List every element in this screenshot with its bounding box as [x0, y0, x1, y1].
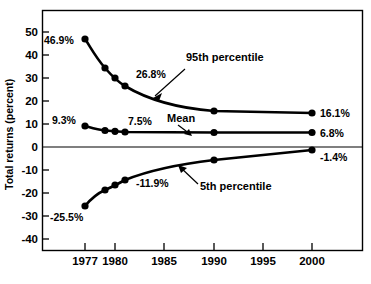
chart-container: 50 40 30 20 10 0 -10 -20 -30 -40 Total r…	[0, 0, 371, 284]
y-tick-label-m40: -40	[21, 233, 38, 245]
y-tick-label-m30: -30	[21, 210, 38, 222]
data-point	[101, 186, 108, 193]
data-point	[210, 129, 217, 136]
y-tick-label-m10: -10	[21, 164, 38, 176]
y-tick-label-40: 40	[25, 49, 38, 61]
y-tick-label-50: 50	[25, 26, 38, 38]
point-label-mean-mid: 7.5%	[128, 115, 153, 127]
data-point	[101, 127, 108, 134]
y-tick-label-10: 10	[25, 118, 38, 130]
y-axis-ticks	[43, 32, 50, 239]
x-tick-label-1980: 1980	[102, 255, 128, 267]
point-label-p95-end: 16.1%	[320, 107, 350, 119]
y-tick-label-m20: -20	[21, 187, 38, 199]
point-label-mean-end: 6.8%	[320, 127, 345, 139]
data-point	[81, 35, 88, 42]
data-point	[308, 109, 315, 116]
data-point	[111, 181, 118, 188]
x-tick-label-1985: 1985	[151, 255, 177, 267]
x-axis-ticks	[85, 243, 312, 251]
data-point	[308, 129, 315, 136]
data-point	[210, 107, 217, 114]
data-point	[121, 176, 128, 183]
data-point	[121, 82, 128, 89]
x-tick-label-1995: 1995	[250, 255, 276, 267]
data-point	[308, 146, 315, 153]
series-curve-p5	[85, 150, 312, 206]
data-point	[81, 202, 88, 209]
series-markers-p95	[81, 35, 315, 116]
point-label-p5-mid: -11.9%	[136, 177, 169, 189]
data-point	[210, 156, 217, 163]
data-point	[101, 64, 108, 71]
y-tick-label-30: 30	[25, 72, 38, 84]
y-tick-label-20: 20	[25, 95, 38, 107]
series-curve-mean	[85, 126, 312, 133]
returns-percentile-chart: 50 40 30 20 10 0 -10 -20 -30 -40 Total r…	[0, 0, 371, 284]
y-tick-label-0: 0	[32, 141, 38, 153]
series-annotation-mean: Mean	[167, 112, 195, 124]
point-label-p5-start: -25.5%	[50, 211, 84, 223]
data-point	[111, 74, 118, 81]
point-label-p5-end: -1.4%	[320, 151, 348, 163]
series-annotation-p5: 5th percentile	[200, 180, 272, 192]
x-tick-label-2000: 2000	[299, 255, 325, 267]
series-markers-mean	[81, 122, 315, 136]
point-label-p95-mid: 26.8%	[136, 68, 166, 80]
data-point	[121, 128, 128, 135]
series-markers-p5	[81, 146, 315, 209]
x-tick-label-1990: 1990	[201, 255, 227, 267]
y-axis-title: Total returns (percent)	[3, 79, 15, 190]
data-point	[81, 122, 88, 129]
x-tick-label-1977: 1977	[72, 255, 98, 267]
data-point	[111, 128, 118, 135]
point-label-p95-start: 46.9%	[44, 34, 74, 46]
point-label-mean-start: 9.3%	[52, 114, 77, 126]
series-annotation-p95: 95th percentile	[186, 51, 264, 63]
